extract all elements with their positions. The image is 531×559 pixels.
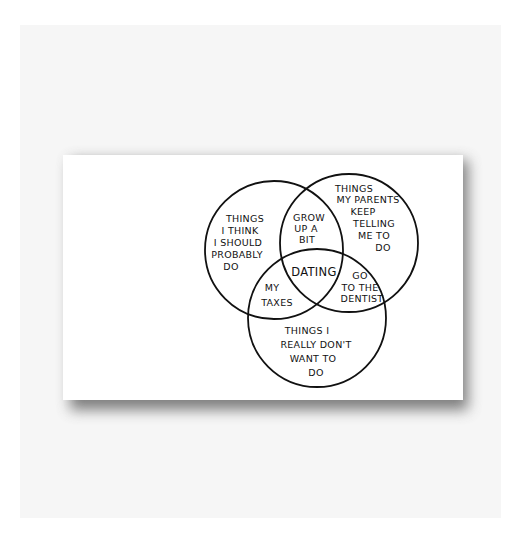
label-left-bottom-overlap: MY TAXES [260,282,293,308]
label-line: BIT [299,234,315,245]
label-line: MY PARENTS [336,194,399,205]
label-line: THINGS [225,213,264,224]
label-line: DO [223,261,238,272]
label-center-overlap: DATING [291,265,336,279]
label-line: GO [352,270,367,281]
label-line: REALLY DON'T [280,339,351,350]
label-line: THINGS I [284,325,329,336]
venn-diagram: THINGS I THINK I SHOULD PROBABLY DO THIN… [0,0,531,559]
label-line: TO THE [340,282,378,293]
label-line: PROBABLY [211,249,263,260]
label-left-right-overlap: GROW UP A BIT [293,212,325,245]
label-right-bottom-overlap: GO TO THE DENTIST [340,270,383,304]
label-line: TELLING [352,218,395,229]
label-line: DATING [291,265,336,279]
label-line: UP A [294,223,318,234]
label-line: MY [265,282,280,293]
label-line: WANT TO [290,353,337,364]
label-line: DENTIST [341,293,384,304]
label-line: I THINK [221,225,258,236]
label-line: DO [375,242,390,253]
label-left-set: THINGS I THINK I SHOULD PROBABLY DO [211,213,264,272]
label-line: ME TO [358,230,390,241]
label-bottom-set: THINGS I REALLY DON'T WANT TO DO [280,325,351,378]
label-line: I SHOULD [214,237,262,248]
label-line: GROW [293,212,325,223]
label-line: KEEP [350,206,375,217]
label-line: TAXES [260,297,293,308]
label-line: THINGS [334,183,373,194]
label-right-set: THINGS MY PARENTS KEEP TELLING ME TO DO [334,183,400,253]
label-line: DO [308,367,323,378]
